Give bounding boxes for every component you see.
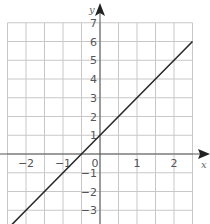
x-tick-label: −2 <box>18 157 34 170</box>
y-tick-label: 3 <box>90 92 97 105</box>
y-axis-label: y <box>88 4 95 15</box>
x-axis-label: x <box>201 159 207 170</box>
y-tick-label: 5 <box>90 54 97 67</box>
y-tick-label: −1 <box>81 167 97 180</box>
line-chart: x y −2−10127654321−1−2−3 <box>0 0 210 224</box>
y-tick-label: 4 <box>90 73 97 86</box>
x-tick-label: 1 <box>134 157 141 170</box>
y-tick-label: 6 <box>90 36 97 49</box>
y-tick-label: −3 <box>81 204 97 217</box>
y-tick-label: −2 <box>81 186 97 199</box>
axes: x y <box>0 3 210 224</box>
y-tick-label: 2 <box>90 111 97 124</box>
y-tick-label: 7 <box>90 17 97 30</box>
x-tick-label: 2 <box>171 157 178 170</box>
